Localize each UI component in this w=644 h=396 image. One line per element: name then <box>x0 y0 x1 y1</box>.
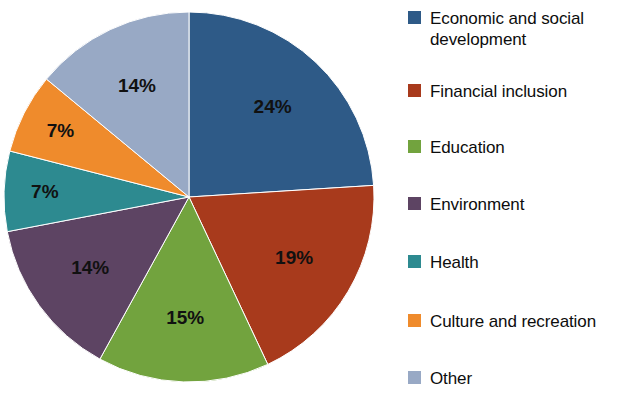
legend-color-swatch <box>408 371 421 384</box>
pie-slice-value-label: 15% <box>166 307 204 328</box>
pie-slice-value-label: 14% <box>71 257 109 278</box>
legend-item-label: Economic and social development <box>430 8 584 50</box>
pie-slice-value-label: 24% <box>254 96 292 117</box>
legend-item[interactable]: Education <box>408 137 644 158</box>
pie-slice-value-label: 7% <box>31 181 59 202</box>
pie-chart-figure: 24%19%15%14%7%7%14% Economic and social … <box>0 0 644 396</box>
pie-chart-svg: 24%19%15%14%7%7%14% <box>0 0 390 396</box>
legend-color-swatch <box>408 84 421 97</box>
pie-slice-value-label: 19% <box>275 247 313 268</box>
legend-item[interactable]: Health <box>408 252 644 273</box>
legend-item[interactable]: Other <box>408 368 644 389</box>
legend-item-label: Culture and recreation <box>430 311 596 332</box>
legend-color-swatch <box>408 11 421 24</box>
legend-item[interactable]: Environment <box>408 194 644 215</box>
chart-legend: Economic and social developmentFinancial… <box>408 0 644 396</box>
legend-item[interactable]: Culture and recreation <box>408 311 644 332</box>
legend-color-swatch <box>408 314 421 327</box>
legend-item[interactable]: Financial inclusion <box>408 81 644 102</box>
pie-slice-value-label: 14% <box>118 75 156 96</box>
legend-item-label: Financial inclusion <box>430 81 567 102</box>
legend-item-label: Education <box>430 137 505 158</box>
legend-item-label: Health <box>430 252 479 273</box>
legend-item-label: Other <box>430 368 472 389</box>
pie-chart-plot-area: 24%19%15%14%7%7%14% <box>0 0 390 396</box>
legend-item[interactable]: Economic and social development <box>408 8 644 50</box>
legend-color-swatch <box>408 140 421 153</box>
legend-color-swatch <box>408 197 421 210</box>
legend-item-label: Environment <box>430 194 524 215</box>
legend-color-swatch <box>408 255 421 268</box>
pie-slice-value-label: 7% <box>47 120 75 141</box>
